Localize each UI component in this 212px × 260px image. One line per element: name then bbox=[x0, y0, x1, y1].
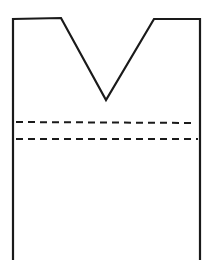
dashed-line-upper bbox=[16, 122, 196, 123]
diagram-canvas bbox=[0, 0, 212, 260]
pattern-drawing bbox=[0, 0, 212, 260]
